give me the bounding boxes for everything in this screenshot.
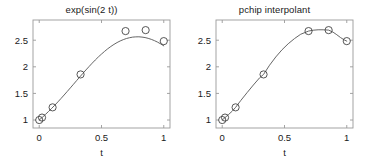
y-tick-label: 1 xyxy=(23,114,28,125)
x-tick-label: 0 xyxy=(220,132,225,143)
x-tick-label: 0.5 xyxy=(95,132,108,143)
x-axis-label: t xyxy=(100,147,103,158)
y-tick-label: 1.5 xyxy=(15,88,28,99)
data-curve xyxy=(39,37,164,120)
data-point-marker xyxy=(142,27,149,34)
y-tick-label: 1 xyxy=(206,114,211,125)
chart-panel-left: exp(sin(2 t)) 00.5111.522.5t xyxy=(0,0,183,164)
x-axis-label: t xyxy=(283,147,286,158)
data-curve xyxy=(222,30,347,120)
y-tick-label: 2 xyxy=(23,61,28,72)
x-tick-label: 0.5 xyxy=(278,132,291,143)
data-point-marker xyxy=(160,38,167,45)
y-tick-label: 2.5 xyxy=(15,35,28,46)
y-tick-label: 2.5 xyxy=(198,35,211,46)
data-point-marker xyxy=(122,27,129,34)
chart-panel-right: pchip interpolant 00.5111.522.5t xyxy=(183,0,366,164)
y-tick-label: 1.5 xyxy=(198,88,211,99)
plot-axes-left: 00.5111.522.5t xyxy=(0,0,183,164)
plot-axes-right: 00.5111.522.5t xyxy=(183,0,366,164)
axes-frame xyxy=(216,20,353,128)
y-tick-label: 2 xyxy=(206,61,211,72)
figure-container: exp(sin(2 t)) 00.5111.522.5t pchip inter… xyxy=(0,0,366,164)
x-tick-label: 0 xyxy=(37,132,42,143)
data-point-marker xyxy=(77,71,84,78)
x-tick-label: 1 xyxy=(161,132,166,143)
x-tick-label: 1 xyxy=(344,132,349,143)
axes-frame xyxy=(33,20,170,128)
